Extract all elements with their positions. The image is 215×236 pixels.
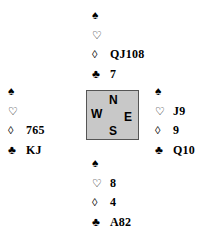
diamond-icon: ◊	[155, 121, 173, 141]
east-clubs-row: ♣Q10	[155, 141, 195, 161]
west-diamonds-row: ◊765	[8, 121, 45, 141]
north-hand: ♠ ♡ ◊QJ108 ♣7	[92, 6, 144, 84]
south-diamonds-cards: 4	[110, 195, 116, 209]
heart-icon: ♡	[92, 174, 110, 194]
heart-icon: ♡	[92, 26, 110, 46]
west-clubs-cards: KJ	[26, 143, 42, 157]
east-spades-row: ♠	[155, 82, 195, 102]
club-icon: ♣	[155, 141, 173, 161]
south-hearts-row: ♡8	[92, 174, 131, 194]
east-diamonds-cards: 9	[173, 123, 179, 137]
spade-icon: ♠	[155, 82, 173, 102]
club-icon: ♣	[8, 141, 26, 161]
spade-icon: ♠	[8, 82, 26, 102]
compass-north-label: N	[109, 93, 118, 107]
south-spades-row: ♠	[92, 154, 131, 174]
compass-south-label: S	[109, 124, 117, 138]
north-clubs-row: ♣7	[92, 65, 144, 85]
compass-box: N W E S	[86, 90, 139, 140]
east-hearts-cards: J9	[173, 104, 185, 118]
club-icon: ♣	[92, 213, 110, 233]
north-hearts-row: ♡	[92, 26, 144, 46]
compass-east-label: E	[124, 110, 132, 124]
west-hand: ♠ ♡ ◊765 ♣KJ	[8, 82, 45, 160]
west-diamonds-cards: 765	[26, 123, 45, 137]
west-hearts-row: ♡	[8, 102, 45, 122]
diamond-icon: ◊	[92, 193, 110, 213]
diamond-icon: ◊	[8, 121, 26, 141]
north-spades-row: ♠	[92, 6, 144, 26]
south-clubs-row: ♣A82	[92, 213, 131, 233]
north-diamonds-cards: QJ108	[110, 47, 144, 61]
north-clubs-cards: 7	[110, 67, 116, 81]
east-clubs-cards: Q10	[173, 143, 195, 157]
spade-icon: ♠	[92, 154, 110, 174]
heart-icon: ♡	[8, 102, 26, 122]
east-hand: ♠ ♡J9 ◊9 ♣Q10	[155, 82, 195, 160]
spade-icon: ♠	[92, 6, 110, 26]
diamond-icon: ◊	[92, 45, 110, 65]
south-clubs-cards: A82	[110, 215, 131, 229]
east-hearts-row: ♡J9	[155, 102, 195, 122]
south-hearts-cards: 8	[110, 176, 116, 190]
east-diamonds-row: ◊9	[155, 121, 195, 141]
west-spades-row: ♠	[8, 82, 45, 102]
club-icon: ♣	[92, 65, 110, 85]
north-diamonds-row: ◊QJ108	[92, 45, 144, 65]
heart-icon: ♡	[155, 102, 173, 122]
west-clubs-row: ♣KJ	[8, 141, 45, 161]
south-diamonds-row: ◊4	[92, 193, 131, 213]
south-hand: ♠ ♡8 ◊4 ♣A82	[92, 154, 131, 232]
compass-west-label: W	[91, 107, 102, 121]
